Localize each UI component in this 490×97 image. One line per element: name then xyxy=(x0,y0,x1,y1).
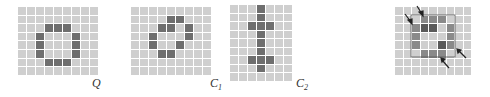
grid-cell xyxy=(27,59,35,67)
grid-cell xyxy=(248,39,256,47)
grid-cell xyxy=(54,41,62,49)
grid-cell xyxy=(167,24,175,32)
grid-cell xyxy=(248,14,256,22)
grid-cell xyxy=(284,65,292,73)
grid-cell xyxy=(54,33,62,41)
grid-cell xyxy=(27,41,35,49)
grid-cell xyxy=(455,50,463,58)
grid-cell xyxy=(149,59,157,67)
grid-cell xyxy=(149,16,157,24)
grid-cell xyxy=(464,16,472,24)
grid-cell xyxy=(45,59,53,67)
grid-cell xyxy=(90,41,98,49)
grid-cell xyxy=(230,31,238,39)
grid-cell xyxy=(194,59,202,67)
grid-cell xyxy=(54,24,62,32)
grid-cell xyxy=(194,41,202,49)
grid-cell xyxy=(131,33,139,41)
grid-cell xyxy=(447,16,455,24)
grid-cell xyxy=(447,50,455,58)
grid-cell xyxy=(54,16,62,24)
grid-cell xyxy=(140,67,148,75)
grid-cell xyxy=(455,59,463,67)
grid-cell xyxy=(158,33,166,41)
grid-cell xyxy=(404,33,412,41)
grid-cell xyxy=(284,5,292,13)
grid-cell xyxy=(54,50,62,58)
grid-cell xyxy=(140,50,148,58)
grid-cell xyxy=(131,50,139,58)
grid-cell xyxy=(81,50,89,58)
label-c1-text: C xyxy=(210,76,218,90)
grid-cell xyxy=(248,48,256,56)
grid-cell xyxy=(81,67,89,75)
grid-cell xyxy=(404,16,412,24)
grid-cell xyxy=(248,73,256,81)
grid-cell xyxy=(266,5,274,13)
grid-cell xyxy=(203,59,211,67)
grid-cell xyxy=(90,33,98,41)
grid-cell xyxy=(429,16,437,24)
grid-cell xyxy=(275,48,283,56)
grid-cell xyxy=(158,7,166,15)
pixel-grid-c1 xyxy=(131,7,211,75)
grid-cell xyxy=(140,16,148,24)
grid-cell xyxy=(131,67,139,75)
grid-cell xyxy=(158,67,166,75)
grid-cell xyxy=(464,7,472,15)
grid-cell xyxy=(447,59,455,67)
grid-cell xyxy=(63,41,71,49)
grid-cell xyxy=(230,14,238,22)
grid-cell xyxy=(194,67,202,75)
grid-cell xyxy=(167,7,175,15)
grid-cell xyxy=(421,24,429,32)
grid-cell xyxy=(45,16,53,24)
grid-cell xyxy=(404,7,412,15)
grid-cell xyxy=(185,50,193,58)
grid-cell xyxy=(140,41,148,49)
grid-cell xyxy=(429,59,437,67)
label-c1: C1 xyxy=(210,76,222,92)
grid-cell xyxy=(90,50,98,58)
grid-cell xyxy=(395,67,403,75)
grid-cell xyxy=(36,24,44,32)
grid-cell xyxy=(45,41,53,49)
grid-cell xyxy=(429,41,437,49)
grid-cell xyxy=(464,59,472,67)
grid-cell xyxy=(176,33,184,41)
grid-cell xyxy=(404,24,412,32)
grid-cell xyxy=(27,24,35,32)
grid-cell xyxy=(131,16,139,24)
grid-cell xyxy=(412,16,420,24)
grid-cell xyxy=(239,65,247,73)
grid-cell xyxy=(72,59,80,67)
grid-cell xyxy=(284,48,292,56)
grid-cell xyxy=(36,7,44,15)
grid-cell xyxy=(412,33,420,41)
grid-cell xyxy=(18,7,26,15)
grid-cell xyxy=(45,7,53,15)
grid-cell xyxy=(266,73,274,81)
pixel-grid-overlay xyxy=(395,7,471,75)
grid-cell xyxy=(203,50,211,58)
grid-cell xyxy=(257,39,265,47)
grid-cell xyxy=(412,41,420,49)
grid-cell xyxy=(36,16,44,24)
grid-cell xyxy=(18,16,26,24)
grid-cell xyxy=(54,7,62,15)
grid-cell xyxy=(72,67,80,75)
grid-cell xyxy=(72,41,80,49)
grid-cell xyxy=(18,50,26,58)
grid-cell xyxy=(90,16,98,24)
grid-cell xyxy=(72,7,80,15)
grid-cell xyxy=(421,59,429,67)
grid-cell xyxy=(54,59,62,67)
grid-cell xyxy=(455,7,463,15)
grid-cell xyxy=(54,67,62,75)
grid-cell xyxy=(284,31,292,39)
grid-cell xyxy=(194,50,202,58)
grid-cell xyxy=(230,39,238,47)
grid-cell xyxy=(18,41,26,49)
grid-cell xyxy=(81,7,89,15)
grid-cell xyxy=(412,7,420,15)
